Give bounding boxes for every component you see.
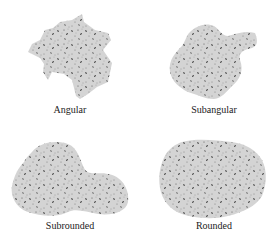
label-rounded: Rounded (196, 220, 232, 231)
rounded-grain-shape (159, 140, 266, 218)
subangular-grain-shape (170, 24, 257, 99)
label-angular: Angular (54, 104, 87, 115)
roundness-diagram: Angular Subangular Subrounded Rounded (0, 0, 275, 241)
grain-shapes (0, 0, 275, 241)
subrounded-grain-shape (12, 142, 129, 216)
label-subangular: Subangular (191, 104, 237, 115)
angular-grain-shape (28, 14, 112, 99)
label-subrounded: Subrounded (46, 220, 94, 231)
